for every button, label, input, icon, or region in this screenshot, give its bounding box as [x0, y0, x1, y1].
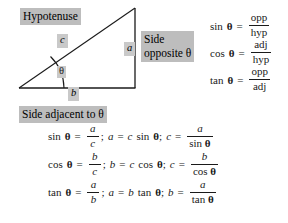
identity-cos-ratio-numerator: b — [90, 151, 100, 163]
identity-cos-angle: θ — [67, 158, 73, 170]
identity-sin-solve-equals: = — [117, 130, 123, 142]
identity-tan-equals: = — [75, 186, 81, 198]
adjacent-variable-label: b — [68, 87, 79, 101]
identity-tan-final-equals: = — [177, 186, 183, 198]
identity-tan-ratio-denominator: b — [89, 194, 99, 206]
hypotenuse-variable-label: c — [57, 34, 68, 48]
trigonometry-figure: Hypotenuse Side opposite θ Side adjacent… — [0, 0, 288, 223]
identity-sin-solve-function: sin — [136, 130, 149, 142]
identity-cos-final-fraction: b cos θ — [191, 151, 218, 178]
ratio-row-cos: cos θ = adj hyp — [210, 39, 273, 66]
identity-row-sin: sin θ = a c ; a = c sin θ ; c = a sin θ — [48, 122, 220, 150]
identity-tan-ratio-numerator: a — [89, 179, 99, 191]
sin-denominator: hyp — [249, 27, 270, 39]
identity-tan-final-denominator: tan θ — [190, 194, 216, 206]
tan-equals-sign: = — [237, 74, 243, 86]
identity-row-cos: cos θ = b c ; b = c cos θ ; c = b cos θ — [48, 150, 220, 178]
identity-sin-solve-coefficient: c — [128, 130, 133, 142]
trig-ratio-definitions: sin θ = opp hyp cos θ = adj hyp tan θ — [210, 12, 273, 93]
identity-tan-final-variable: b — [168, 186, 174, 198]
identity-cos-final-equals: = — [179, 158, 185, 170]
ratio-row-sin: sin θ = opp hyp — [210, 12, 273, 39]
cos-denominator: hyp — [251, 54, 272, 66]
identity-tan-angle: θ — [65, 186, 71, 198]
theta-angle-label: θ — [57, 66, 66, 78]
identity-cos-solve-coefficient: c — [129, 158, 134, 170]
identity-sin-final-denominator-function: sin — [189, 137, 202, 149]
cos-angle-symbol: θ — [229, 47, 235, 59]
identity-tan-final-denominator-function: tan — [192, 193, 205, 205]
identity-cos-solve-function: cos — [138, 158, 153, 170]
sin-fraction: opp hyp — [249, 12, 270, 39]
cos-function-name: cos — [210, 47, 225, 59]
identity-cos-final-denominator: cos θ — [191, 166, 218, 178]
identity-cos-final-variable: c — [170, 158, 175, 170]
identity-sin-ratio-fraction: a c — [87, 123, 99, 150]
identity-cos-ratio-fraction: b c — [89, 151, 101, 178]
identity-cos-ratio-denominator: c — [90, 166, 99, 178]
sin-angle-symbol: θ — [227, 20, 233, 32]
identity-tan-semicolon-1: ; — [101, 186, 104, 198]
side-opposite-callout: Side opposite θ — [141, 31, 194, 62]
trig-identity-equations: sin θ = a c ; a = c sin θ ; c = a sin θ — [48, 122, 220, 206]
identity-sin-final-equals: = — [175, 130, 181, 142]
identity-sin-solve-variable: a — [108, 130, 114, 142]
identity-sin-semicolon-1: ; — [101, 130, 104, 142]
identity-sin-ratio-denominator: c — [88, 138, 97, 150]
ratio-row-tan: tan θ = opp adj — [210, 66, 273, 93]
sin-equals-sign: = — [237, 20, 243, 32]
identity-cos-semicolon-2: ; — [163, 158, 166, 170]
identity-sin-final-denominator: sin θ — [187, 138, 212, 150]
sin-numerator: opp — [249, 12, 270, 24]
tan-fraction: opp adj — [249, 66, 270, 93]
identity-tan-semicolon-2: ; — [161, 186, 164, 198]
sin-function-name: sin — [210, 20, 223, 32]
identity-cos-final-numerator: b — [200, 151, 210, 163]
identity-tan-ratio-fraction: a b — [87, 179, 99, 206]
identity-tan-solve-equals: = — [118, 186, 124, 198]
cos-numerator: adj — [252, 39, 269, 51]
side-adjacent-callout: Side adjacent to θ — [19, 106, 107, 123]
identity-tan-solve-function: tan — [138, 186, 151, 198]
identity-cos-solve-equals: = — [119, 158, 125, 170]
identity-tan-solve-variable: a — [108, 186, 114, 198]
identity-cos-solve-variable: b — [110, 158, 116, 170]
identity-tan-final-denominator-angle: θ — [208, 193, 214, 205]
identity-sin-final-denominator-angle: θ — [205, 137, 211, 149]
side-opposite-line-2: opposite θ — [144, 46, 191, 60]
identity-cos-function: cos — [48, 158, 63, 170]
side-opposite-line-1: Side — [144, 32, 191, 46]
identity-tan-function: tan — [48, 186, 61, 198]
opposite-variable-label: a — [124, 42, 135, 56]
hypotenuse-callout: Hypotenuse — [20, 8, 81, 25]
identity-sin-final-variable: c — [166, 130, 171, 142]
identity-tan-final-fraction: a tan θ — [190, 179, 216, 206]
cos-fraction: adj hyp — [251, 39, 272, 66]
identity-tan-final-numerator: a — [198, 179, 208, 191]
identity-tan-solve-coefficient: b — [128, 186, 134, 198]
identity-sin-ratio-numerator: a — [88, 123, 98, 135]
identity-sin-function: sin — [48, 130, 61, 142]
tan-numerator: opp — [249, 66, 270, 78]
identity-cos-final-denominator-function: cos — [193, 165, 208, 177]
tan-denominator: adj — [251, 81, 268, 93]
cos-equals-sign: = — [238, 47, 244, 59]
identity-cos-equals: = — [76, 158, 82, 170]
identity-sin-equals: = — [75, 130, 81, 142]
tan-function-name: tan — [210, 74, 223, 86]
tan-angle-symbol: θ — [227, 74, 233, 86]
identity-cos-final-denominator-angle: θ — [210, 165, 216, 177]
identity-row-tan: tan θ = a b ; a = b tan θ ; b = a tan θ — [48, 178, 220, 206]
identity-sin-final-fraction: a sin θ — [187, 123, 212, 150]
identity-sin-angle: θ — [65, 130, 71, 142]
identity-sin-semicolon-2: ; — [159, 130, 162, 142]
identity-cos-semicolon-1: ; — [103, 158, 106, 170]
identity-sin-final-numerator: a — [195, 123, 205, 135]
